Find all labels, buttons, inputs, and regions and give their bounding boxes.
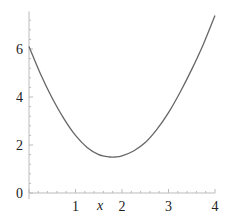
- x-tick-label: 2: [119, 199, 126, 214]
- function-curve: [29, 15, 215, 157]
- line-chart: 12340246 x: [0, 0, 237, 221]
- x-tick-label: 3: [165, 199, 172, 214]
- x-axis-label: x: [96, 198, 104, 213]
- y-tick-label: 2: [16, 138, 23, 153]
- y-tick-label: 6: [16, 42, 23, 57]
- tick-labels: 12340246: [16, 42, 219, 214]
- y-tick-label: 4: [16, 90, 23, 105]
- x-tick-label: 1: [72, 199, 79, 214]
- axes: [29, 11, 215, 199]
- x-tick-label: 4: [212, 199, 219, 214]
- y-tick-label: 0: [16, 186, 23, 201]
